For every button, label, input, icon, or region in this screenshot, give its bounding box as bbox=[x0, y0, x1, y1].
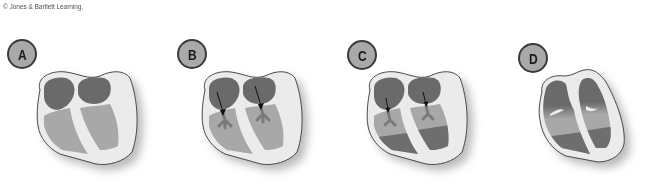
heart-panel-a: A bbox=[0, 30, 170, 190]
heart-panel-b: B bbox=[165, 30, 335, 190]
heart-diagram-d bbox=[490, 30, 655, 190]
heart-panel-c: C bbox=[330, 30, 500, 190]
heart-diagram-a bbox=[0, 30, 170, 190]
copyright-credit: © Jones & Bartlett Learning. bbox=[3, 2, 83, 11]
heart-diagram-c bbox=[330, 30, 500, 190]
heart-diagram-b bbox=[165, 30, 335, 190]
heart-panel-d: D bbox=[490, 30, 655, 190]
